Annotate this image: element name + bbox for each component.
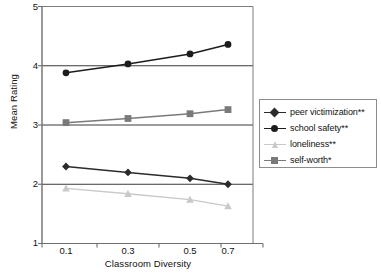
triangle-marker-icon [264, 138, 286, 150]
legend-item-peer-victimization[interactable]: peer victimization** [264, 104, 373, 120]
data-point [186, 174, 194, 182]
circle-marker-icon [264, 122, 286, 134]
square-marker-icon [264, 154, 286, 166]
legend: peer victimization** school safety** lon… [259, 99, 377, 168]
legend-item-loneliness[interactable]: loneliness** [264, 136, 373, 152]
series-circle [63, 41, 232, 76]
legend-label-loneliness: loneliness** [290, 139, 336, 149]
legend-label-self-worth: self-worth* [290, 155, 331, 165]
data-point [187, 110, 194, 117]
data-point [225, 41, 232, 48]
data-point [125, 115, 132, 122]
data-point [225, 106, 232, 113]
legend-item-self-worth[interactable]: self-worth* [264, 152, 373, 168]
data-point [124, 169, 132, 177]
legend-item-school-safety[interactable]: school safety** [264, 120, 373, 136]
chart-container: Mean Rating 5 4 3 2 1 0.1 0.3 0.5 0.7 Cl… [0, 0, 381, 277]
data-point [224, 180, 232, 188]
diamond-marker-icon [264, 106, 286, 118]
data-point [187, 51, 194, 58]
data-point [62, 163, 70, 171]
legend-label-peer-victimization: peer victimization** [290, 107, 365, 117]
data-point [125, 61, 132, 68]
legend-label-school-safety: school safety** [290, 123, 348, 133]
series-triangle [62, 184, 232, 209]
series-square [63, 106, 232, 126]
data-point [63, 119, 70, 126]
data-point [63, 69, 70, 76]
